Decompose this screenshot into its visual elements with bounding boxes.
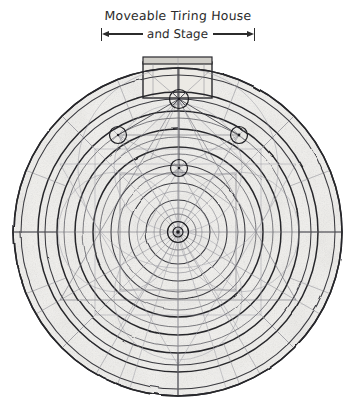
- drawing-canvas: Moveable Tiring House and Stage: [0, 0, 356, 419]
- theatre-plan-drawing: [0, 0, 356, 419]
